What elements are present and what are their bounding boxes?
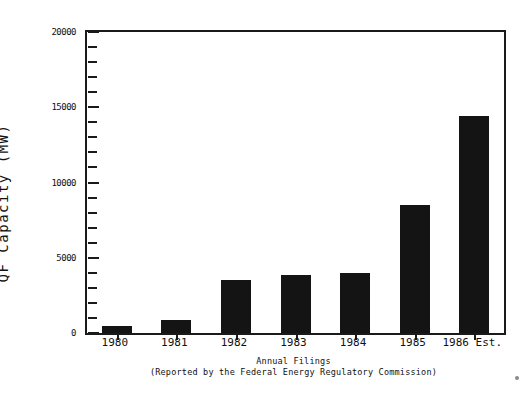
x-axis-tick-label: 1986 Est. <box>442 337 502 348</box>
y-axis-tick-label: 10000 <box>51 178 76 187</box>
x-axis-tick-label: 1983 <box>280 337 307 348</box>
x-axis-caption-line-2: (Reported by the Federal Energy Regulato… <box>85 367 502 378</box>
y-axis-title: QF Capacity (MW) <box>0 88 10 318</box>
y-axis-tick-label: 20000 <box>51 28 76 37</box>
bar <box>400 205 430 333</box>
bar <box>102 326 132 333</box>
bar <box>281 275 311 333</box>
x-axis-tick-label: 1984 <box>340 337 367 348</box>
bar <box>459 116 489 333</box>
bar <box>221 280 251 333</box>
x-axis-caption: Annual Filings (Reported by the Federal … <box>85 356 502 378</box>
bar-chart-figure: QF Capacity (MW) 05000100001500020000 19… <box>0 0 532 395</box>
y-axis-tick-label: 0 <box>71 329 76 338</box>
y-axis-tick-label: 15000 <box>51 103 76 112</box>
bar <box>161 320 191 333</box>
x-axis-tick-label: 1985 <box>399 337 426 348</box>
y-axis-tick-label: 5000 <box>56 253 76 262</box>
x-axis-caption-line-1: Annual Filings <box>85 356 502 367</box>
x-axis-tick-label: 1980 <box>102 337 129 348</box>
x-axis-tick-label: 1981 <box>161 337 188 348</box>
scan-artifact-dot <box>515 376 519 380</box>
bars-layer <box>87 32 504 333</box>
plot-area: 05000100001500020000 <box>85 30 506 335</box>
x-axis-tick-label: 1982 <box>221 337 248 348</box>
bar <box>340 273 370 333</box>
